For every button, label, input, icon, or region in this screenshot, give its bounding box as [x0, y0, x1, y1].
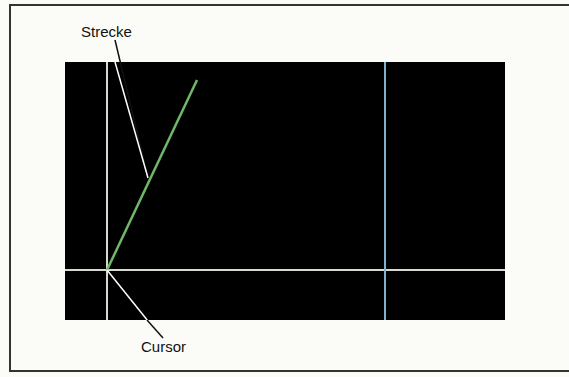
crt-screen [65, 62, 505, 320]
cursor-leader-line-outside [147, 320, 163, 338]
